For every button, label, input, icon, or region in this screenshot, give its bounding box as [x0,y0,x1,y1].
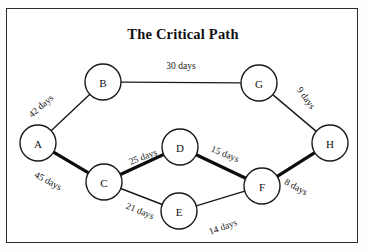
node-b[interactable]: B [85,64,121,100]
node-h[interactable]: H [312,125,348,161]
node-label-c: C [100,177,107,189]
edge-a-c [53,152,88,173]
node-label-h: H [326,138,334,150]
edge-label-f-h: 8 days [283,177,310,198]
diagram-canvas: The Critical Path ABCDEFGH 42 days30 day… [0,0,366,252]
node-c[interactable]: C [86,164,122,200]
network-graph: ABCDEFGH 42 days30 days9 days45 days25 d… [0,0,366,252]
edge-a-b [51,94,90,130]
node-a[interactable]: A [20,125,56,161]
node-label-a: A [34,138,42,150]
edge-label-b-g: 30 days [166,61,196,71]
node-label-g: G [255,78,263,90]
node-label-d: D [176,142,184,154]
edge-e-f [196,191,245,206]
node-label-b: B [99,77,106,89]
node-label-f: F [259,181,265,193]
edge-label-c-e: 21 days [125,201,156,221]
node-e[interactable]: E [161,193,197,229]
edge-label-e-f: 14 days [208,217,239,237]
edge-label-g-h: 9 days [295,85,317,111]
edge-label-d-f: 15 days [210,144,241,164]
node-f[interactable]: F [244,168,280,204]
node-g[interactable]: G [241,65,277,101]
node-d[interactable]: D [162,129,198,165]
edge-f-h [277,153,315,177]
node-label-e: E [176,206,183,218]
edge-b-g [121,82,241,83]
edge-label-a-b: 42 days [27,92,56,119]
edge-label-a-c: 45 days [33,170,64,193]
